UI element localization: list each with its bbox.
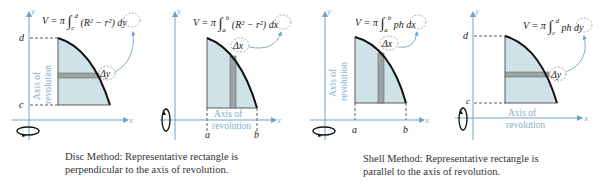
- svg-text:revolution: revolution: [43, 65, 53, 104]
- representative-rectangle: [58, 73, 101, 78]
- y-axis-label: y: [326, 6, 331, 16]
- formula: V = π ∫ab (R² − r²) dx: [193, 11, 279, 34]
- caption-line: parallel to the axis of revolution.: [363, 165, 539, 178]
- tick-a: a: [205, 129, 210, 140]
- tick-b: b: [403, 124, 408, 135]
- formula: V = π ∫cd (R² − r²) dy: [42, 9, 127, 32]
- y-axis-label: y: [474, 6, 479, 16]
- delta-label: Δy: [550, 69, 562, 80]
- representative-rectangle: [378, 53, 384, 103]
- tick-c: c: [19, 99, 24, 110]
- tick-b: b: [254, 129, 259, 140]
- x-axis-label: x: [276, 115, 281, 125]
- caption-line: Shell Method: Representative rectangle i…: [363, 152, 539, 165]
- tick-d: d: [463, 30, 469, 41]
- rotation-arrow-icon: [17, 127, 39, 135]
- region: [505, 36, 557, 103]
- svg-text:revolution: revolution: [212, 121, 251, 131]
- caption-line: Disc Method: Representative rectangle is: [65, 150, 238, 163]
- representative-rectangle: [505, 72, 549, 77]
- formula: V = π ∫cd ph dy: [523, 14, 584, 37]
- tick-d: d: [19, 32, 25, 43]
- x-axis-label: x: [128, 115, 133, 125]
- delta-label: Δx: [232, 40, 244, 51]
- caption-line: perpendicular to the axis of revolution.: [65, 163, 238, 176]
- shell-method-caption: Shell Method: Representative rectangle i…: [363, 152, 539, 178]
- rotation-arrow-icon: [459, 108, 467, 130]
- axis-of-revolution-label: Axis of: [508, 108, 537, 118]
- rotation-arrow-icon: [313, 127, 335, 135]
- formula: V = π ∫ab ph dx: [355, 11, 416, 34]
- axis-of-revolution-label: Axis of: [214, 109, 243, 119]
- delta-label: Δy: [99, 68, 111, 79]
- representative-rectangle: [230, 56, 236, 108]
- disc-method-caption: Disc Method: Representative rectangle is…: [65, 150, 238, 176]
- tick-a: a: [352, 124, 357, 135]
- tick-c: c: [466, 96, 470, 106]
- y-axis-label: y: [30, 6, 35, 16]
- x-axis-label: x: [583, 113, 588, 123]
- x-axis-label: x: [424, 115, 429, 125]
- delta-label: Δx: [381, 38, 393, 49]
- axis-of-revolution-label: Axis of: [32, 71, 42, 100]
- svg-text:revolution: revolution: [339, 62, 349, 101]
- svg-text:revolution: revolution: [506, 120, 545, 130]
- y-axis-label: y: [176, 6, 181, 16]
- axis-of-revolution-label: Axis of: [328, 68, 338, 97]
